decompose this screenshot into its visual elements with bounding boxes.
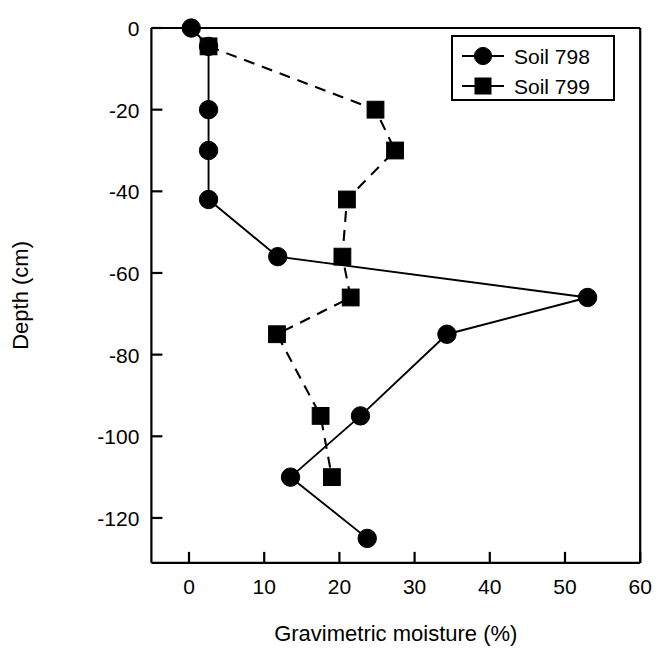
square-marker-icon (269, 326, 286, 343)
series-line-soil-798 (191, 28, 587, 538)
circle-marker-icon (199, 100, 217, 118)
circle-marker-icon (474, 47, 491, 64)
y-tick-label: 0 (128, 17, 140, 40)
x-tick-label: 40 (478, 575, 501, 598)
x-tick-label: 0 (183, 575, 195, 598)
square-marker-icon (200, 38, 217, 55)
legend: Soil 798Soil 799 (452, 36, 614, 100)
circle-marker-icon (438, 325, 456, 343)
legend-label: Soil 798 (514, 45, 590, 68)
legend-label: Soil 799 (514, 75, 590, 98)
square-marker-icon (323, 469, 340, 486)
x-tick-label: 10 (253, 575, 276, 598)
x-tick-label: 50 (553, 575, 576, 598)
soil-moisture-depth-plot: 01020304050600-20-40-60-80-100-120Gravim… (0, 0, 667, 658)
y-tick-label: -100 (97, 425, 139, 448)
y-tick-label: -120 (97, 507, 139, 530)
circle-marker-icon (358, 529, 376, 547)
axis-labels-layer: 01020304050600-20-40-60-80-100-120Gravim… (8, 17, 652, 646)
y-tick-label: -60 (109, 262, 139, 285)
legend-entry: Soil 798 (462, 45, 590, 68)
circle-marker-icon (351, 407, 369, 425)
circle-marker-icon (199, 190, 217, 208)
circle-marker-icon (281, 468, 299, 486)
circle-marker-icon (578, 288, 596, 306)
series-markers-soil-799 (200, 38, 403, 486)
y-axis-title: Depth (cm) (8, 241, 33, 350)
y-tick-label: -20 (109, 99, 139, 122)
x-tick-label: 20 (328, 575, 351, 598)
y-tick-label: -80 (109, 344, 139, 367)
square-marker-icon (342, 289, 359, 306)
y-tick-label: -40 (109, 180, 139, 203)
x-tick-label: 60 (629, 575, 652, 598)
chart-container: 01020304050600-20-40-60-80-100-120Gravim… (0, 0, 667, 658)
x-tick-label: 30 (403, 575, 426, 598)
square-marker-icon (367, 101, 384, 118)
square-marker-icon (312, 407, 329, 424)
circle-marker-icon (199, 141, 217, 159)
square-marker-icon (387, 142, 404, 159)
square-marker-icon (339, 191, 356, 208)
square-marker-icon (334, 248, 351, 265)
x-axis-title: Gravimetric moisture (%) (274, 621, 517, 646)
square-marker-icon (475, 78, 491, 94)
circle-marker-icon (269, 247, 287, 265)
